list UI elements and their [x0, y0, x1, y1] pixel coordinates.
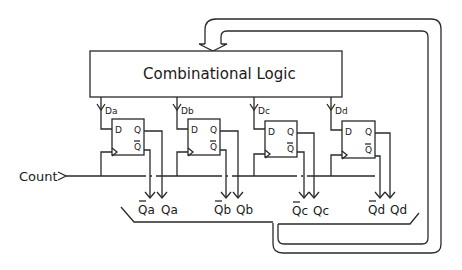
combinational-logic-block: Combinational Logic: [90, 51, 342, 97]
pin-q-d: Q: [365, 127, 372, 137]
pin-qbar-c: Q: [287, 144, 294, 154]
q-output-a: Qa: [161, 203, 178, 217]
pin-q-b: Q: [210, 125, 217, 135]
qbar-output-a: Qa: [138, 203, 155, 217]
pin-d-d: D: [345, 127, 352, 137]
q-output-b: Qb: [236, 203, 253, 217]
count-label: Count: [19, 169, 58, 184]
d-label-d: Dd: [335, 106, 348, 116]
q-output-c: Qc: [313, 204, 329, 218]
pin-d-c: D: [268, 127, 275, 137]
pin-qbar-a: Q: [134, 142, 141, 152]
q-output-d: Qd: [390, 203, 407, 217]
d-label-a: Da: [105, 106, 117, 116]
pin-qbar-d: Q: [365, 145, 372, 155]
flip-flop-a: Da D Q Q Qa Qa: [97, 97, 178, 217]
d-label-c: Dc: [258, 106, 270, 116]
flip-flop-b: Db D Q Q Qb Qb: [173, 97, 253, 217]
flip-flop-d: Dd D Q Q Qd Qd: [327, 97, 407, 217]
pin-d-b: D: [191, 125, 198, 135]
qbar-output-c: Qc: [292, 204, 308, 218]
count-clock-line: Count: [19, 169, 375, 184]
qbar-output-d: Qd: [368, 203, 385, 217]
d-label-b: Db: [181, 106, 194, 116]
qbar-output-b: Qb: [214, 203, 231, 217]
pin-q-a: Q: [134, 125, 141, 135]
flip-flop-c: Dc D Q Q Qc Qc: [250, 97, 329, 218]
pin-qbar-b: Q: [210, 142, 217, 152]
logic-label: Combinational Logic: [143, 65, 296, 83]
counter-diagram: Combinational Logic Count Da D Q Q Qa Qa…: [0, 0, 462, 270]
pin-q-c: Q: [287, 127, 294, 137]
pin-d-a: D: [115, 125, 122, 135]
